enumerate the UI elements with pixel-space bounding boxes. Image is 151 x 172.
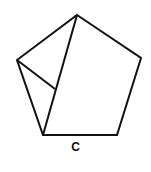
figure-label: C: [0, 140, 151, 154]
diagonal-line: [43, 15, 77, 135]
